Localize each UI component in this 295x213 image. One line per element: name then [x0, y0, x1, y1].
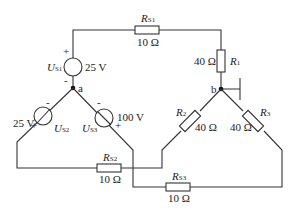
- node-b-label: b: [211, 83, 217, 95]
- rs1-value: 10 Ω: [137, 36, 159, 48]
- node-a-label: a: [78, 82, 83, 94]
- circuit-diagram: + - US1 25 V a b RS1 10 Ω 40 Ω R1 25 V +…: [0, 0, 295, 213]
- us3-minus: -: [97, 96, 101, 108]
- resistor-rs2: [97, 164, 121, 172]
- resistor-rs1: [135, 26, 159, 34]
- wire-rs3-r3: [190, 131, 282, 187]
- rs3-value: 10 Ω: [168, 192, 190, 204]
- us3-plus: +: [115, 119, 121, 131]
- r3-value: 40 Ω: [230, 121, 252, 133]
- resistor-r1: [217, 50, 225, 72]
- rs1-label: RS1: [140, 12, 156, 24]
- r2-label: R2: [175, 106, 187, 118]
- us1-label: US1: [47, 61, 63, 73]
- us3-label: US3: [82, 122, 98, 134]
- r1-label: R1: [229, 55, 241, 67]
- rs3-label: RS3: [171, 170, 187, 182]
- us2-plus: +: [31, 119, 37, 131]
- us2-minus: -: [46, 96, 50, 108]
- us1-minus: -: [64, 74, 68, 86]
- rs2-label: RS2: [102, 151, 118, 163]
- ground-symbol: [221, 78, 240, 100]
- resistor-rs3: [166, 183, 190, 191]
- r3-label: R3: [259, 106, 271, 118]
- us1-plus: +: [63, 45, 69, 57]
- r1-value: 40 Ω: [194, 55, 216, 67]
- us2-label: US2: [54, 122, 70, 134]
- wire-rs2-r2: [121, 131, 181, 168]
- rs2-value: 10 Ω: [99, 173, 121, 185]
- r2-value: 40 Ω: [195, 121, 217, 133]
- us1-value: 25 V: [85, 61, 107, 73]
